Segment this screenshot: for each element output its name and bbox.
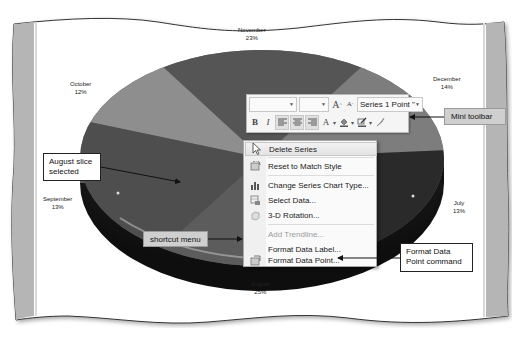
chart-type-icon bbox=[245, 180, 265, 191]
label-name: December bbox=[433, 75, 461, 83]
grow-font-icon: A bbox=[332, 99, 339, 110]
callout-mini-toolbar: Mini toolbar bbox=[444, 108, 506, 125]
menu-item-delete-series[interactable]: Delete Series bbox=[245, 142, 377, 156]
label-pct: 14% bbox=[433, 83, 461, 91]
cursor-arrow-icon bbox=[246, 143, 266, 155]
mini-toolbar-row-1: ▼ ▼ A^ Aˇ Series 1 Point " ▼ bbox=[249, 96, 425, 112]
label-name: August bbox=[251, 280, 270, 288]
align-left-button[interactable] bbox=[275, 115, 289, 130]
font-color-icon: A bbox=[323, 117, 330, 127]
menu-item-change-series-chart-type[interactable]: Change Series Chart Type... bbox=[245, 178, 375, 192]
data-label-november: November 23% bbox=[238, 26, 266, 42]
menu-separator bbox=[268, 157, 374, 158]
menu-item-label: Delete Series bbox=[266, 145, 317, 154]
menu-item-add-trendline[interactable]: Add Trendline... bbox=[245, 227, 375, 241]
chart-element-selector[interactable]: Series 1 Point " ▼ bbox=[357, 97, 423, 112]
data-label-july: July 13% bbox=[453, 199, 465, 215]
chevron-down-icon[interactable]: ▾ bbox=[369, 119, 372, 126]
format-painter-button[interactable] bbox=[374, 116, 386, 129]
menu-item-select-data[interactable]: Select Data... bbox=[245, 193, 375, 207]
element-selector-value: Series 1 Point " bbox=[360, 100, 415, 109]
data-label-august: August 25% bbox=[251, 280, 270, 296]
align-center-icon bbox=[293, 118, 302, 126]
bold-icon: B bbox=[252, 117, 258, 127]
select-data-icon bbox=[245, 195, 265, 206]
callout-text: shortcut menu bbox=[150, 235, 201, 244]
menu-item-3d-rotation[interactable]: 3-D Rotation... bbox=[245, 208, 375, 222]
data-label-december: December 14% bbox=[433, 75, 461, 91]
label-name: July bbox=[453, 199, 465, 207]
outline-color-button[interactable] bbox=[356, 116, 368, 129]
menu-separator bbox=[268, 175, 374, 176]
format-painter-icon bbox=[375, 117, 385, 127]
data-label-october: October 12% bbox=[70, 80, 91, 96]
paint-bucket-icon bbox=[339, 117, 349, 127]
callout-shortcut-menu: shortcut menu bbox=[143, 231, 208, 247]
italic-button[interactable]: I bbox=[262, 116, 274, 129]
callout-text: Format Data Point command bbox=[406, 247, 462, 266]
menu-item-label: Reset to Match Style bbox=[265, 162, 342, 171]
shrink-font-button[interactable]: Aˇ bbox=[344, 98, 356, 111]
callout-text: August slice selected bbox=[49, 157, 92, 176]
align-right-icon bbox=[308, 118, 317, 126]
menu-item-label: Select Data... bbox=[265, 196, 316, 205]
label-name: September bbox=[43, 195, 72, 203]
menu-item-label: Change Series Chart Type... bbox=[265, 181, 369, 190]
label-name: October bbox=[70, 80, 91, 88]
bold-button[interactable]: B bbox=[249, 116, 261, 129]
chevron-down-icon: ▼ bbox=[321, 101, 326, 107]
label-pct: 25% bbox=[251, 288, 270, 296]
align-center-button[interactable] bbox=[290, 115, 304, 130]
chevron-down-icon: ▼ bbox=[289, 101, 294, 107]
font-size-combo[interactable]: ▼ bbox=[299, 97, 329, 112]
shortcut-menu: Delete Series Reset to Match Style Chang… bbox=[243, 140, 377, 267]
format-point-icon bbox=[245, 255, 265, 266]
label-pct: 13% bbox=[43, 203, 72, 211]
chevron-down-icon: ▼ bbox=[415, 101, 420, 107]
fill-color-button[interactable] bbox=[338, 116, 350, 129]
label-pct: 23% bbox=[238, 34, 266, 42]
align-left-icon bbox=[278, 118, 287, 126]
align-right-button[interactable] bbox=[305, 115, 319, 130]
reset-style-icon bbox=[245, 161, 265, 172]
pen-outline-icon bbox=[357, 117, 367, 127]
mini-toolbar: ▼ ▼ A^ Aˇ Series 1 Point " ▼ B I bbox=[246, 94, 409, 133]
menu-item-format-data-point[interactable]: Format Data Point... bbox=[245, 253, 375, 267]
menu-item-label: Add Trendline... bbox=[265, 230, 324, 239]
menu-item-label: 3-D Rotation... bbox=[265, 211, 320, 220]
grow-font-button[interactable]: A^ bbox=[331, 98, 343, 111]
callout-august-slice-selected: August slice selected bbox=[43, 153, 101, 181]
callout-format-data-point: Format Data Point command bbox=[400, 243, 473, 272]
mini-toolbar-row-2: B I A ▾ ▾ ▾ bbox=[249, 114, 387, 130]
label-name: November bbox=[238, 26, 266, 34]
menu-item-label: Format Data Point... bbox=[265, 256, 340, 265]
chevron-down-icon[interactable]: ▾ bbox=[333, 119, 336, 126]
chevron-down-icon[interactable]: ▾ bbox=[351, 119, 354, 126]
menu-separator bbox=[268, 224, 374, 225]
italic-icon: I bbox=[267, 117, 270, 127]
font-color-button[interactable]: A bbox=[320, 116, 332, 129]
menu-item-reset-to-match-style[interactable]: Reset to Match Style bbox=[245, 159, 375, 173]
label-pct: 13% bbox=[453, 207, 465, 215]
data-label-september: September 13% bbox=[43, 195, 72, 211]
label-pct: 12% bbox=[70, 88, 91, 96]
rotation-icon bbox=[245, 210, 265, 221]
font-name-combo[interactable]: ▼ bbox=[249, 97, 297, 112]
callout-text: Mini toolbar bbox=[451, 112, 492, 121]
